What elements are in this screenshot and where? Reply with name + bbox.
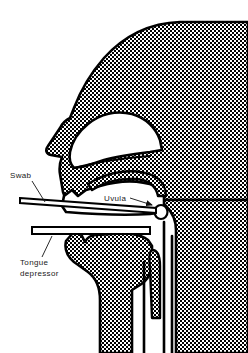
- label-uvula: Uvula: [104, 194, 126, 203]
- tongue-depressor-leader-line: [42, 236, 52, 257]
- mandible: [65, 232, 152, 353]
- epiglottis: [149, 250, 160, 318]
- anatomical-figure: Swab Uvula Tongue depressor: [0, 0, 248, 353]
- label-swab: Swab: [10, 171, 32, 180]
- diagram-canvas: Swab Uvula Tongue depressor: [0, 0, 248, 353]
- label-tongue-depressor-line1: Tongue: [20, 258, 49, 267]
- tongue-depressor-stick[interactable]: [32, 227, 150, 234]
- label-tongue-depressor-line2: depressor: [20, 269, 59, 278]
